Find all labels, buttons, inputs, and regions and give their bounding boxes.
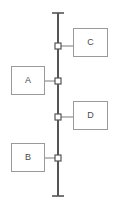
node-box-b[interactable]: B xyxy=(11,143,45,172)
node-box-c[interactable]: C xyxy=(73,28,108,57)
node-box-d-label: D xyxy=(87,111,94,120)
diagram-canvas: C A D B xyxy=(0,0,115,205)
node-box-d[interactable]: D xyxy=(73,101,108,130)
bus-tap-node-b[interactable] xyxy=(55,155,61,161)
node-box-a-label: A xyxy=(25,76,31,85)
node-box-a[interactable]: A xyxy=(11,66,45,95)
node-box-b-label: B xyxy=(25,153,31,162)
node-box-c-label: C xyxy=(87,38,94,47)
bus-tap-node-c[interactable] xyxy=(55,43,61,49)
bus-tap-node-a[interactable] xyxy=(55,78,61,84)
bus-tap-node-d[interactable] xyxy=(55,114,61,120)
